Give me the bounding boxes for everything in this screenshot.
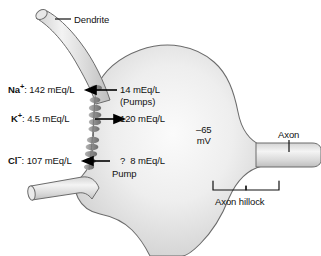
label-pumps-note: (Pumps): [120, 96, 155, 107]
neuron-diagram: Dendrite Na+: 142 mEq/L K+: 4.5 mEq/L Cl…: [0, 0, 321, 256]
neuron-illustration: [0, 0, 321, 256]
ion-value-na-out: : 142 mEq/L: [24, 84, 74, 95]
label-na-intracellular: 14 mEq/L: [120, 84, 160, 95]
ion-value-k-out: : 4.5 mEq/L: [22, 113, 69, 124]
ion-value-cl-out: : 107 mEq/L: [22, 155, 72, 166]
label-axon: Axon: [278, 129, 299, 140]
label-dendrite: Dendrite: [74, 14, 109, 25]
label-cl-extracellular: Cl−: 107 mEq/L: [8, 155, 72, 166]
ion-name-k: K: [11, 113, 18, 124]
membrane-potential-value: –65: [196, 124, 212, 135]
cell-body: [76, 45, 262, 256]
ion-name-cl: Cl: [8, 155, 17, 166]
ion-value-cl-in: 8 mEq/L: [130, 155, 165, 166]
membrane-potential-unit: mV: [197, 135, 211, 146]
label-axon-hillock: Axon hillock: [215, 196, 265, 207]
label-k-intracellular: 120 mEq/L: [120, 113, 165, 124]
unknown-marker: ?: [120, 155, 125, 166]
label-pump: Pump: [112, 168, 136, 179]
ion-name-na: Na: [8, 84, 20, 95]
label-na-extracellular: Na+: 142 mEq/L: [8, 84, 74, 95]
label-membrane-potential: –65 mV: [196, 124, 212, 146]
label-k-extracellular: K+: 4.5 mEq/L: [11, 113, 70, 124]
label-cl-intracellular: ? 8 mEq/L: [120, 155, 165, 166]
